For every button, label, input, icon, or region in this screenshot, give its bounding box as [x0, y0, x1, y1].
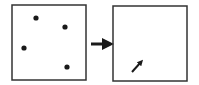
dot	[62, 24, 67, 29]
left-panel	[12, 5, 86, 80]
dot	[64, 64, 69, 69]
right-panel	[113, 6, 187, 81]
dot	[33, 15, 38, 20]
diagram-canvas	[0, 0, 199, 85]
dot-group	[21, 15, 69, 69]
left-box	[12, 5, 86, 80]
right-box	[113, 6, 187, 81]
vector-arrow-icon	[132, 62, 141, 72]
dot	[21, 45, 26, 50]
